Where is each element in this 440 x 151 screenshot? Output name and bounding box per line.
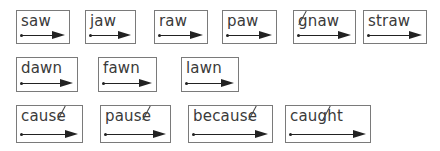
card-word: caught [290,107,343,125]
word-card-pause: pause [100,105,171,143]
sound-arrow-icon [20,79,73,87]
silent-letter-mark: e [142,107,151,125]
word-card-paw: paw [222,10,277,44]
word-card-fawn: fawn [98,57,157,92]
sound-arrow-icon [192,130,268,138]
word-card-raw: raw [154,10,208,44]
arrow-shaft [228,35,262,36]
card-word: saw [21,12,51,30]
sound-arrow-icon [20,130,78,138]
arrow-shaft [291,134,356,135]
arrow-shaft [91,35,121,36]
card-word: jaw [90,12,116,30]
arrow-head [190,31,203,39]
card-word: cause [21,107,66,125]
arrow-head [255,130,268,138]
card-word: fawn [103,59,140,77]
word-card-cause: cause [16,105,83,143]
card-word: dawn [21,59,62,77]
arrow-shaft [104,83,142,84]
word-card-lawn: lawn [181,57,239,92]
word-card-straw: straw [363,10,427,44]
sound-arrow-icon [158,31,203,39]
card-word: pause [105,107,151,125]
word-card-gnaw: gnaw [293,10,356,44]
card-word: gnaw [298,12,339,30]
arrow-shaft [22,134,68,135]
word-card-jaw: jaw [85,10,136,44]
arrow-head [153,130,166,138]
sound-arrow-icon [185,79,234,87]
silent-letter-mark: e [248,107,257,125]
card-word: raw [159,12,187,30]
sound-arrow-icon [297,31,351,39]
arrow-head [118,31,131,39]
arrow-head [409,31,422,39]
arrow-head [353,130,366,138]
arrow-head [221,79,234,87]
word-card-caught: caught [285,105,371,143]
arrow-head [259,31,272,39]
sound-arrow-icon [102,79,152,87]
card-word: lawn [186,59,222,77]
card-word: paw [227,12,259,30]
arrow-head [65,130,78,138]
sound-arrow-icon [89,31,131,39]
silent-letter-mark: g [298,12,308,30]
arrow-shaft [187,83,224,84]
silent-letter-mark: gh [318,107,337,125]
silent-letter-mark: e [57,107,66,125]
arrow-shaft [160,35,193,36]
card-word: because [193,107,257,125]
word-card-because: because [188,105,273,143]
sound-arrow-icon [289,130,366,138]
sound-arrow-icon [20,31,65,39]
arrow-head [52,31,65,39]
sound-arrow-icon [226,31,272,39]
arrow-shaft [299,35,341,36]
sound-arrow-icon [367,31,422,39]
arrow-shaft [22,83,63,84]
arrow-shaft [369,35,412,36]
sound-arrow-icon [104,130,166,138]
word-card-saw: saw [16,10,70,44]
arrow-head [139,79,152,87]
arrow-head [338,31,351,39]
card-word: straw [368,12,410,30]
arrow-shaft [106,134,156,135]
arrow-shaft [194,134,258,135]
arrow-shaft [22,35,55,36]
arrow-head [60,79,73,87]
word-card-dawn: dawn [16,57,78,92]
